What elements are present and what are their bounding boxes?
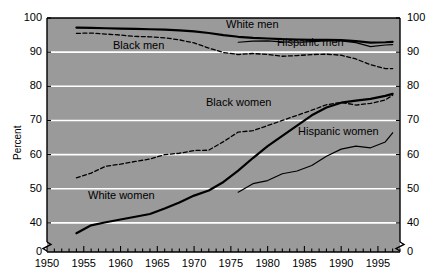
series-label-black-men: Black men <box>113 39 164 51</box>
x-tick-label-1955: 1955 <box>64 257 104 269</box>
series-label-white-men: White men <box>226 18 279 30</box>
x-tick-label-1975: 1975 <box>211 257 251 269</box>
x-tick-label-1995: 1995 <box>358 257 398 269</box>
series-label-hispanic-men: Hispanic men <box>277 36 344 48</box>
y-tick-label-right-40: 40 <box>407 216 437 228</box>
y-tick-label-left-50: 50 <box>12 182 42 194</box>
y-tick-label-right-60: 60 <box>407 148 437 160</box>
y-tick-label-right-90: 90 <box>407 45 437 57</box>
y-tick-label-right-50: 50 <box>407 182 437 194</box>
series-label-black-women: Black women <box>206 96 271 108</box>
y-tick-label-left-40: 40 <box>12 216 42 228</box>
x-tick-label-1960: 1960 <box>101 257 141 269</box>
x-tick-label-1950: 1950 <box>27 257 67 269</box>
x-tick-label-1970: 1970 <box>174 257 214 269</box>
x-tick-label-1990: 1990 <box>321 257 361 269</box>
y-tick-label-right-0: 0 <box>407 245 437 257</box>
y-tick-label-left-100: 100 <box>12 11 42 23</box>
y-tick-label-right-70: 70 <box>407 113 437 125</box>
x-tick-label-1980: 1980 <box>248 257 288 269</box>
y-tick-label-left-70: 70 <box>12 113 42 125</box>
y-tick-label-right-100: 100 <box>407 11 437 23</box>
y-tick-label-right-80: 80 <box>407 79 437 91</box>
y-tick-label-left-90: 90 <box>12 45 42 57</box>
series-label-white-women: White women <box>88 189 155 201</box>
chart-container: Percent 10010090908080707060605050404000… <box>0 0 437 273</box>
y-tick-label-left-60: 60 <box>12 148 42 160</box>
series-label-hispanic-women: Hispanic women <box>298 125 379 137</box>
x-tick-label-1965: 1965 <box>137 257 177 269</box>
y-tick-label-left-0: 0 <box>12 245 42 257</box>
x-tick-label-1985: 1985 <box>284 257 324 269</box>
y-tick-label-left-80: 80 <box>12 79 42 91</box>
